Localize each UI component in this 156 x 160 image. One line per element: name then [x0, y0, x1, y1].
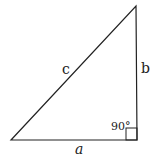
leg-label-b: b — [141, 60, 150, 76]
angle-label-90: 90° — [111, 120, 131, 133]
hypotenuse-label-c: c — [62, 61, 70, 77]
leg-label-a: a — [75, 141, 83, 157]
right-triangle-diagram: c b a 90° — [0, 0, 156, 160]
